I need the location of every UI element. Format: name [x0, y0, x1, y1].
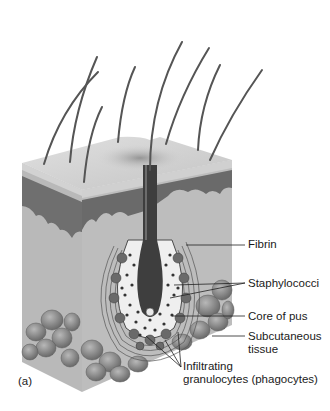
label-subcutaneous-line2: tissue — [248, 343, 278, 356]
label-infiltrating-line2: granulocytes (phagocytes) — [183, 373, 318, 386]
panel-label: (a) — [18, 375, 32, 388]
label-fibrin: Fibrin — [248, 238, 277, 251]
label-staphylococci: Staphylococci — [248, 277, 319, 290]
label-infiltrating-line1: Infiltrating — [183, 360, 233, 373]
label-core-of-pus: Core of pus — [248, 310, 307, 323]
label-subcutaneous-line1: Subcutaneous — [248, 330, 322, 343]
skin-block-diagram — [0, 0, 330, 411]
